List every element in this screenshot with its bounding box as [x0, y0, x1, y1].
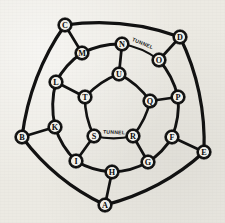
node-face-r — [127, 130, 138, 141]
node-p[interactable]: P — [171, 90, 186, 105]
node-face-q — [144, 95, 155, 106]
node-face-b — [16, 131, 27, 142]
node-face-d — [174, 31, 185, 42]
node-n[interactable]: N — [115, 37, 130, 52]
node-face-p — [172, 91, 183, 102]
node-i[interactable]: I — [69, 154, 84, 169]
node-face-m — [76, 47, 87, 58]
node-e[interactable]: E — [197, 145, 212, 160]
node-face-o — [153, 54, 164, 65]
node-face-t — [79, 91, 90, 102]
node-k[interactable]: K — [48, 120, 63, 135]
node-face-g — [142, 156, 153, 167]
node-face-f — [166, 131, 177, 142]
node-q[interactable]: Q — [143, 94, 158, 109]
node-h[interactable]: H — [105, 165, 120, 180]
puzzle-figure: TUNNELTUNNEL ABCDEFGHIKLMNOPQRSTU — [0, 0, 225, 223]
node-face-h — [106, 166, 117, 177]
tunnel-label-2: TUNNEL — [103, 129, 125, 136]
node-face-l — [50, 76, 61, 87]
node-o[interactable]: O — [152, 53, 167, 68]
node-face-a — [99, 199, 110, 210]
node-s[interactable]: S — [87, 129, 102, 144]
nodes-layer: ABCDEFGHIKLMNOPQRSTU — [15, 18, 212, 213]
node-m[interactable]: M — [75, 46, 90, 61]
node-face-e — [198, 146, 209, 157]
node-face-i — [70, 155, 81, 166]
node-face-c — [59, 19, 70, 30]
node-face-n — [116, 38, 127, 49]
node-t[interactable]: T — [78, 90, 93, 105]
node-face-s — [88, 130, 99, 141]
node-b[interactable]: B — [15, 130, 30, 145]
node-d[interactable]: D — [173, 30, 188, 45]
node-c[interactable]: C — [58, 18, 73, 33]
edge-c-d — [65, 23, 180, 37]
node-u[interactable]: U — [112, 67, 127, 82]
node-l[interactable]: L — [49, 75, 64, 90]
graph-canvas: TUNNELTUNNEL ABCDEFGHIKLMNOPQRSTU — [0, 0, 225, 223]
node-a[interactable]: A — [98, 198, 113, 213]
node-face-k — [49, 121, 60, 132]
node-g[interactable]: G — [141, 155, 156, 170]
node-f[interactable]: F — [165, 130, 180, 145]
node-face-u — [113, 68, 124, 79]
node-r[interactable]: R — [126, 129, 141, 144]
